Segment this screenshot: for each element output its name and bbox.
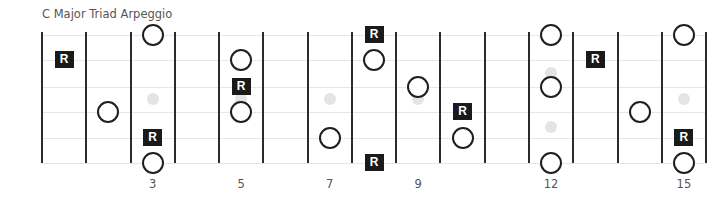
fret-number-label: 9 [406, 177, 430, 191]
fretboard: RRRRRRRR35791215 [0, 0, 714, 204]
chord-tone-circle-icon [673, 152, 695, 174]
chord-tone-circle-icon [142, 24, 164, 46]
string-line [42, 138, 706, 139]
chord-tone-circle-icon [319, 127, 341, 149]
fret-line [41, 32, 43, 163]
inlay-dot-icon [147, 93, 159, 105]
root-note-marker: R [232, 78, 251, 95]
fret-line [130, 32, 132, 163]
fret-number-label: 5 [229, 177, 253, 191]
fret-number-label: 15 [672, 177, 696, 191]
chord-tone-circle-icon [97, 101, 119, 123]
inlay-dot-icon [678, 93, 690, 105]
chord-tone-circle-icon [230, 49, 252, 71]
root-note-marker: R [586, 51, 605, 68]
fret-number-label: 3 [141, 177, 165, 191]
root-note-marker: R [674, 129, 693, 146]
chord-tone-circle-icon [629, 101, 651, 123]
fret-line [218, 32, 220, 163]
fret-line [85, 32, 87, 163]
fret-number-label: 7 [318, 177, 342, 191]
root-note-marker: R [365, 26, 384, 43]
chord-tone-circle-icon [540, 24, 562, 46]
string-line [42, 87, 706, 88]
root-note-marker: R [55, 51, 74, 68]
chord-tone-circle-icon [673, 24, 695, 46]
chord-tone-circle-icon [540, 152, 562, 174]
fret-line [572, 32, 574, 163]
fret-line [351, 32, 353, 163]
fret-line [174, 32, 176, 163]
inlay-dot-icon [324, 93, 336, 105]
root-note-marker: R [143, 129, 162, 146]
fret-line [262, 32, 264, 163]
inlay-dot-icon [545, 121, 557, 133]
fret-line [705, 32, 707, 163]
chord-tone-circle-icon [452, 127, 474, 149]
root-note-marker: R [453, 103, 472, 120]
fret-line [617, 32, 619, 163]
chord-tone-circle-icon [363, 49, 385, 71]
fret-line [484, 32, 486, 163]
chord-tone-circle-icon [142, 152, 164, 174]
fret-line [307, 32, 309, 163]
fret-line [439, 32, 441, 163]
chord-tone-circle-icon [230, 101, 252, 123]
string-line [42, 112, 706, 113]
fret-line [395, 32, 397, 163]
fret-number-label: 12 [539, 177, 563, 191]
chord-tone-circle-icon [407, 76, 429, 98]
chord-tone-circle-icon [540, 76, 562, 98]
fret-line [661, 32, 663, 163]
fret-line [528, 32, 530, 163]
root-note-marker: R [365, 154, 384, 171]
